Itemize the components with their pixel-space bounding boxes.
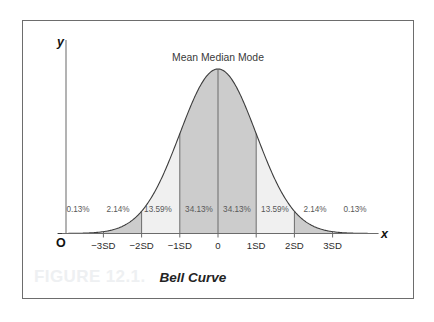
figure-container: y x O Mean Median Mode 0.13%2.14%13.59%3…	[0, 0, 434, 322]
x-tick-label-5: 2SD	[285, 240, 304, 251]
x-tick-label-0: −3SD	[91, 240, 115, 251]
x-axis-tick-labels: −3SD−2SD−1SD01SD2SD3SD	[91, 240, 342, 251]
x-tick-label-3: 0	[215, 240, 220, 251]
mean-median-mode-label: Mean Median Mode	[172, 52, 264, 63]
percent-label-2: 13.59%	[144, 205, 172, 214]
x-tick-label-4: 1SD	[247, 240, 266, 251]
y-axis-label: y	[56, 35, 65, 49]
x-tick-label-6: 3SD	[323, 240, 342, 251]
x-tick-label-1: −2SD	[129, 240, 153, 251]
percent-label-3: 34.13%	[185, 205, 213, 214]
sd-divider-lines	[103, 69, 332, 234]
figure-title: Bell Curve	[160, 270, 227, 285]
figure-number: FIGURE 12.1.	[34, 267, 146, 287]
x-axis-label: x	[380, 227, 389, 241]
percent-label-4: 34.13%	[223, 205, 251, 214]
x-tick-label-2: −1SD	[168, 240, 192, 251]
percent-label-5: 13.59%	[261, 205, 289, 214]
figure-caption: FIGURE 12.1. Bell Curve	[34, 262, 394, 292]
origin-label: O	[56, 236, 66, 250]
percent-label-0: 0.13%	[66, 205, 89, 214]
percent-label-7: 0.13%	[343, 205, 366, 214]
percent-label-1: 2.14%	[106, 205, 129, 214]
x-axis-ticks	[103, 234, 332, 238]
percent-label-6: 2.14%	[303, 205, 326, 214]
